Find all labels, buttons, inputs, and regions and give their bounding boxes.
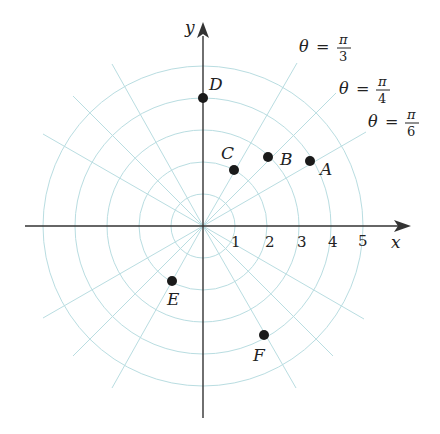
point-e bbox=[167, 276, 177, 286]
svg-text:=: = bbox=[316, 37, 329, 56]
ray-label-pi-6: θ = π 6 bbox=[368, 107, 419, 139]
svg-text:3: 3 bbox=[339, 49, 347, 64]
point-d-label: D bbox=[208, 74, 223, 94]
polar-diagram: y x 1 2 3 4 5 θ = π 3 θ = π 4 θ = π 6 A … bbox=[0, 0, 440, 434]
svg-text:6: 6 bbox=[407, 124, 415, 139]
svg-text:4: 4 bbox=[378, 91, 386, 106]
svg-text:=: = bbox=[385, 112, 398, 131]
svg-text:=: = bbox=[356, 79, 369, 98]
ray-11pi-6 bbox=[203, 226, 364, 319]
svg-text:θ: θ bbox=[339, 79, 349, 98]
ray-5pi-3 bbox=[203, 226, 296, 388]
point-f bbox=[259, 330, 269, 340]
y-axis-arrow-icon bbox=[197, 22, 209, 38]
x-tick-5: 5 bbox=[358, 232, 368, 250]
point-b-label: B bbox=[279, 149, 293, 169]
ray-2pi-3 bbox=[112, 64, 203, 226]
x-tick-3: 3 bbox=[297, 233, 307, 251]
ray-label-pi-4: θ = π 4 bbox=[339, 74, 390, 106]
ray-4pi-3 bbox=[112, 226, 203, 388]
x-tick-4: 4 bbox=[328, 233, 338, 251]
svg-text:π: π bbox=[377, 74, 387, 89]
x-axis-label: x bbox=[391, 232, 401, 252]
point-d bbox=[198, 93, 208, 103]
point-f-label: F bbox=[252, 345, 266, 365]
point-a-label: A bbox=[318, 159, 332, 179]
point-b bbox=[263, 152, 273, 162]
svg-text:θ: θ bbox=[299, 37, 309, 56]
y-axis-label: y bbox=[184, 17, 195, 37]
point-a bbox=[305, 156, 315, 166]
x-tick-2: 2 bbox=[265, 233, 275, 251]
ray-5pi-6 bbox=[43, 134, 203, 226]
svg-text:π: π bbox=[338, 32, 348, 47]
svg-text:π: π bbox=[406, 107, 416, 122]
point-e-label: E bbox=[166, 289, 180, 309]
point-c bbox=[229, 165, 239, 175]
svg-text:θ: θ bbox=[368, 112, 378, 131]
x-tick-1: 1 bbox=[231, 233, 241, 251]
ray-label-pi-3: θ = π 3 bbox=[299, 32, 351, 64]
point-c-label: C bbox=[221, 143, 234, 163]
